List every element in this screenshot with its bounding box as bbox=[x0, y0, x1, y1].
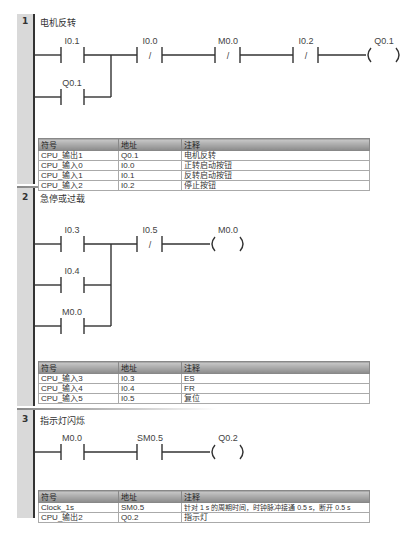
cell-address: I0.4 bbox=[119, 384, 182, 394]
contact-label: I0.0 bbox=[142, 36, 157, 46]
cell-address: I0.0 bbox=[119, 161, 182, 171]
cell-address: I0.5 bbox=[119, 394, 182, 404]
cell-comment: 复位 bbox=[182, 394, 370, 404]
symbol-table-network-3: 符号 地址 注释 Clock_1s SM0.5 针对 1 s 的周期时间，时钟脉… bbox=[38, 490, 370, 523]
table-header-row: 符号 地址 注释 bbox=[39, 491, 370, 503]
cell-symbol: CPU_输入0 bbox=[39, 161, 119, 171]
contact-label: Q0.1 bbox=[62, 78, 82, 88]
table-row: CPU_输出1 Q0.1 电机反转 bbox=[39, 151, 370, 161]
table-row: Clock_1s SM0.5 针对 1 s 的周期时间，时钟脉冲接通 0.5 s… bbox=[39, 503, 370, 513]
contact-label: I0.5 bbox=[142, 225, 157, 235]
column-header-comment: 注释 bbox=[182, 139, 370, 151]
cell-symbol: CPU_输入5 bbox=[39, 394, 119, 404]
cell-symbol: CPU_输出2 bbox=[39, 513, 119, 523]
nc-slash-icon: / bbox=[305, 51, 308, 61]
cell-address: Q0.1 bbox=[119, 151, 182, 161]
cell-symbol: CPU_输出1 bbox=[39, 151, 119, 161]
symbol-table-network-1: 符号 地址 注释 CPU_输出1 Q0.1 电机反转 CPU_输入0 I0.0 … bbox=[38, 138, 370, 191]
cell-address: SM0.5 bbox=[119, 503, 182, 513]
coil-label: M0.0 bbox=[218, 225, 238, 235]
contact-label: I0.4 bbox=[64, 266, 79, 276]
nc-slash-icon: / bbox=[227, 51, 230, 61]
column-header-symbol: 符号 bbox=[39, 139, 119, 151]
table-row: CPU_输入3 I0.3 ES bbox=[39, 374, 370, 384]
cell-comment: 电机反转 bbox=[182, 151, 370, 161]
table-row: CPU_输入4 I0.4 FR bbox=[39, 384, 370, 394]
cell-address: Q0.2 bbox=[119, 513, 182, 523]
table-header-row: 符号 地址 注释 bbox=[39, 362, 370, 374]
cell-address: I0.3 bbox=[119, 374, 182, 384]
cell-comment: 停止按钮 bbox=[182, 181, 370, 191]
coil-label: Q0.1 bbox=[374, 36, 394, 46]
table-row: CPU_输入5 I0.5 复位 bbox=[39, 394, 370, 404]
cell-address: I0.2 bbox=[119, 181, 182, 191]
column-header-address: 地址 bbox=[119, 362, 182, 374]
column-header-comment: 注释 bbox=[182, 362, 370, 374]
column-header-symbol: 符号 bbox=[39, 491, 119, 503]
ladder-diagram: / / / / I0.1 I0.0 M0.0 I0.2 Q0.1 Q0.1 I0… bbox=[0, 0, 415, 550]
cell-comment: 正转启动按钮 bbox=[182, 161, 370, 171]
table-header-row: 符号 地址 注释 bbox=[39, 139, 370, 151]
table-row: CPU_输入0 I0.0 正转启动按钮 bbox=[39, 161, 370, 171]
nc-slash-icon: / bbox=[149, 240, 152, 250]
cell-address: I0.1 bbox=[119, 171, 182, 181]
table-row: CPU_输入1 I0.1 反转启动按钮 bbox=[39, 171, 370, 181]
column-header-address: 地址 bbox=[119, 139, 182, 151]
cell-comment: 针对 1 s 的周期时间，时钟脉冲接通 0.5 s，断开 0.5 s bbox=[182, 503, 370, 513]
cell-comment: 指示灯 bbox=[182, 513, 370, 523]
cell-comment: 反转启动按钮 bbox=[182, 171, 370, 181]
cell-comment: FR bbox=[182, 384, 370, 394]
column-header-address: 地址 bbox=[119, 491, 182, 503]
column-header-comment: 注释 bbox=[182, 491, 370, 503]
column-header-symbol: 符号 bbox=[39, 362, 119, 374]
contact-label: I0.1 bbox=[64, 36, 79, 46]
coil-label: Q0.2 bbox=[218, 433, 238, 443]
cell-symbol: CPU_输入1 bbox=[39, 171, 119, 181]
cell-symbol: CPU_输入4 bbox=[39, 384, 119, 394]
cell-comment: ES bbox=[182, 374, 370, 384]
cell-symbol: CPU_输入2 bbox=[39, 181, 119, 191]
cell-symbol: Clock_1s bbox=[39, 503, 119, 513]
contact-label: I0.2 bbox=[298, 36, 313, 46]
nc-slash-icon: / bbox=[149, 51, 152, 61]
table-row: CPU_输入2 I0.2 停止按钮 bbox=[39, 181, 370, 191]
contact-label: M0.0 bbox=[62, 307, 82, 317]
symbol-table-network-2: 符号 地址 注释 CPU_输入3 I0.3 ES CPU_输入4 I0.4 FR… bbox=[38, 361, 370, 404]
contact-label: I0.3 bbox=[64, 225, 79, 235]
contact-label: M0.0 bbox=[218, 36, 238, 46]
contact-label: M0.0 bbox=[62, 433, 82, 443]
table-row: CPU_输出2 Q0.2 指示灯 bbox=[39, 513, 370, 523]
cell-symbol: CPU_输入3 bbox=[39, 374, 119, 384]
contact-label: SM0.5 bbox=[137, 433, 163, 443]
